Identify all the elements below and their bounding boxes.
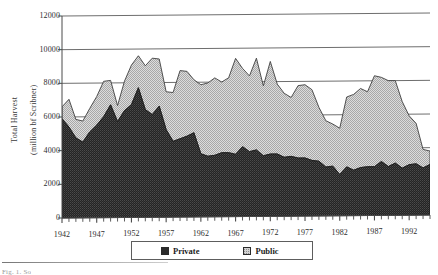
legend-item-private: Private [161,246,199,256]
x-tick-label: 1982 [332,228,348,237]
legend-swatch-public-icon [243,247,251,255]
gridline [62,13,430,16]
x-tick-label: 1992 [401,227,417,236]
x-tick-label: 1957 [158,229,174,238]
x-tick-label: 1947 [89,230,105,239]
legend-label-public: Public [255,246,278,256]
legend-item-public: Public [243,246,278,256]
x-tick-label: 1972 [262,228,278,237]
gridline [62,47,430,50]
x-tick-label: 1942 [54,230,70,239]
x-axis-ticks: 1942194719521957196219671972197719821987… [0,222,438,238]
series-areas [62,56,430,218]
x-tick-label: 1977 [297,228,313,237]
figure-container: Total Harvest (million bf Scribner) 0200… [0,0,438,275]
caption-rule [2,262,168,263]
chart-legend: Private Public [131,241,313,260]
x-tick-label: 1962 [193,229,209,238]
x-tick-label: 1987 [366,227,382,236]
x-tick-label: 1967 [227,229,243,238]
legend-label-private: Private [173,246,199,256]
x-tick-label: 1952 [123,229,139,238]
legend-swatch-private-icon [161,247,169,255]
figure-caption: Fig. 1. So [2,268,31,275]
